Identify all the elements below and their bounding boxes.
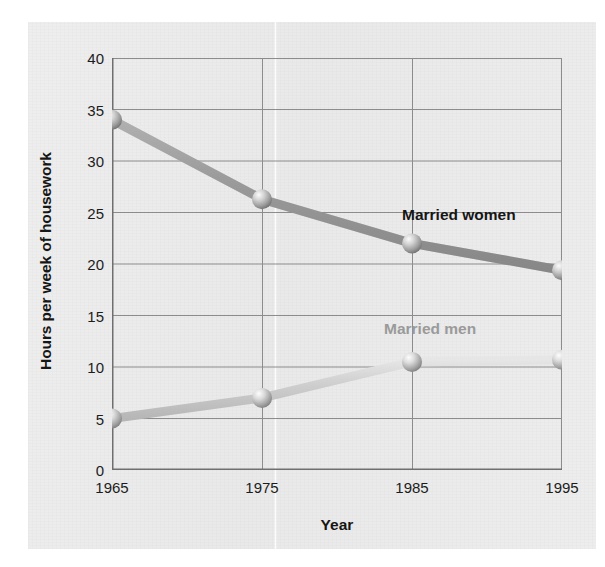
- y-tick-30: 30: [64, 153, 104, 170]
- y-tick-10: 10: [64, 359, 104, 376]
- data-point-men-1985: [402, 352, 422, 372]
- x-tick-1985: 1985: [372, 479, 452, 496]
- x-axis-title: Year: [112, 516, 562, 534]
- data-point-men-1975: [252, 388, 272, 408]
- data-point-women-1995: [552, 260, 562, 280]
- y-tick-20: 20: [64, 256, 104, 273]
- y-tick-0: 0: [64, 462, 104, 479]
- y-tick-40: 40: [64, 50, 104, 67]
- y-tick-35: 35: [64, 101, 104, 118]
- y-tick-25: 25: [64, 204, 104, 221]
- x-tick-1975: 1975: [222, 479, 302, 496]
- y-tick-5: 5: [64, 410, 104, 427]
- x-tick-1995: 1995: [522, 479, 602, 496]
- married-men-line: [112, 360, 562, 419]
- series-label-married-women: Married women: [402, 206, 516, 224]
- series-label-married-men: Married men: [384, 320, 476, 338]
- x-tick-1965: 1965: [72, 479, 152, 496]
- horizontal-gridlines: [112, 110, 562, 470]
- series-married-women: [112, 110, 562, 280]
- data-point-women-1985: [402, 233, 422, 253]
- plot-area: Married women Married men: [112, 58, 562, 470]
- y-axis-title: Hours per week of housework: [37, 131, 55, 391]
- data-point-men-1965: [112, 409, 122, 429]
- married-women-line-shade: [112, 120, 562, 270]
- series-married-men: [112, 350, 562, 429]
- chart-svg: [112, 58, 562, 470]
- data-point-women-1975: [252, 189, 272, 209]
- chart-figure: Hours per week of housework 0 5 10 15 20…: [0, 0, 605, 567]
- married-women-line: [112, 120, 562, 270]
- y-tick-15: 15: [64, 307, 104, 324]
